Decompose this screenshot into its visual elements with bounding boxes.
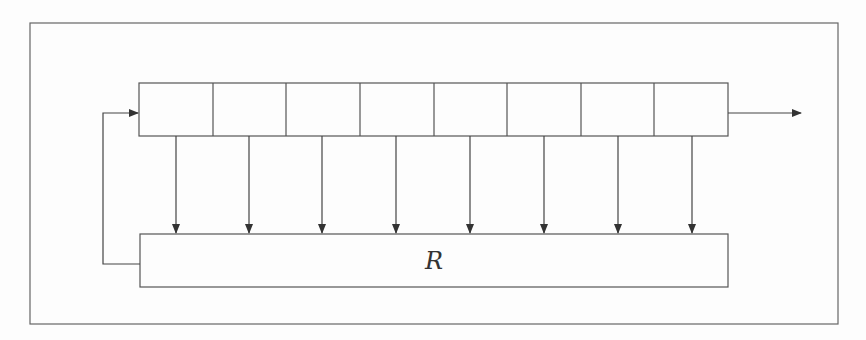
function-label: R — [424, 247, 443, 275]
outer-frame — [30, 23, 838, 324]
shift-register-diagram: R — [0, 0, 866, 340]
tap-arrows — [176, 136, 692, 233]
register — [139, 83, 728, 136]
feedback-arrow — [103, 113, 140, 264]
